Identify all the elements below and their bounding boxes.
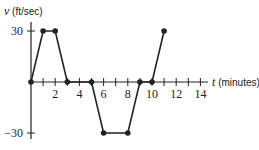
x-tick-label: 12 bbox=[170, 87, 182, 101]
x-tick-label: 14 bbox=[194, 87, 206, 101]
data-point bbox=[28, 79, 34, 85]
data-point bbox=[161, 28, 167, 34]
data-point bbox=[89, 79, 95, 85]
data-point bbox=[52, 28, 58, 34]
data-point bbox=[149, 79, 155, 85]
x-tick-label: 4 bbox=[76, 87, 82, 101]
x-tick-label: 8 bbox=[125, 87, 131, 101]
y-tick-label: −30 bbox=[4, 126, 23, 140]
y-axis-label: v (ft/sec) bbox=[4, 4, 43, 18]
x-tick-label: 10 bbox=[146, 87, 158, 101]
velocity-chart: 246810121430−30 v (ft/sec) t (minutes) bbox=[0, 0, 259, 150]
data-point bbox=[40, 28, 46, 34]
x-axis-label: t (minutes) bbox=[212, 75, 259, 89]
y-tick-label: 30 bbox=[11, 24, 23, 38]
data-point bbox=[65, 79, 71, 85]
x-tick-label: 2 bbox=[52, 87, 58, 101]
data-point bbox=[101, 130, 107, 136]
data-point bbox=[125, 130, 131, 136]
data-point bbox=[137, 79, 143, 85]
x-tick-label: 6 bbox=[101, 87, 107, 101]
